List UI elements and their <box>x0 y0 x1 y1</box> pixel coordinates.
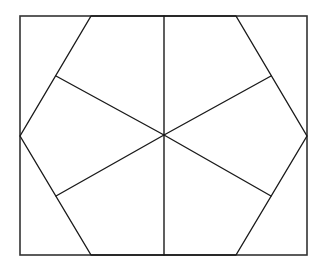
spoke-lower-right <box>164 135 271 196</box>
spoke-lower-left <box>56 135 164 196</box>
spoke-upper-right <box>164 76 271 135</box>
hexagon-kite-diagram <box>0 0 316 268</box>
spoke-upper-left <box>56 76 164 135</box>
center-point <box>163 134 165 136</box>
